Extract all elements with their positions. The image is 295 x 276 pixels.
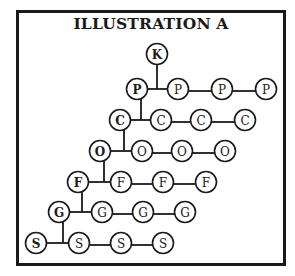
node-o-3: O	[172, 141, 193, 162]
node-label: P	[218, 83, 226, 97]
node-c-4: C	[235, 110, 256, 131]
node-o-4: O	[215, 141, 236, 162]
node-label: P	[262, 83, 270, 97]
node-o-1: O	[90, 141, 111, 162]
node-p-1: P	[127, 79, 148, 100]
node-label: G	[138, 206, 148, 220]
node-label: G	[54, 206, 64, 220]
node-label: O	[95, 145, 105, 159]
tree-diagram: KPPPPCCCCOOOOFFFFGGGGSSSS	[0, 0, 295, 276]
node-label: O	[220, 145, 230, 159]
node-label: P	[132, 83, 141, 97]
node-p-3: P	[212, 79, 233, 100]
node-f-3: F	[153, 172, 174, 193]
node-label: G	[97, 206, 107, 220]
node-s-4: S	[153, 233, 174, 254]
node-label: C	[196, 114, 205, 128]
node-s-2: S	[69, 233, 90, 254]
node-c-2: C	[151, 110, 172, 131]
node-label: F	[74, 176, 83, 190]
node-g-2: G	[92, 202, 113, 223]
node-s-3: S	[111, 233, 132, 254]
node-label: F	[117, 176, 125, 190]
node-o-2: O	[132, 141, 153, 162]
node-label: C	[156, 114, 165, 128]
node-f-1: F	[68, 172, 89, 193]
node-label: K	[152, 48, 163, 62]
node-f-4: F	[196, 172, 217, 193]
node-label: S	[117, 237, 125, 251]
node-g-1: G	[49, 202, 70, 223]
node-label: G	[180, 206, 190, 220]
node-f-2: F	[111, 172, 132, 193]
node-g-3: G	[133, 202, 154, 223]
node-label: S	[32, 237, 41, 251]
node-label: S	[159, 237, 167, 251]
node-c-1: C	[110, 110, 131, 131]
node-c-3: C	[191, 110, 212, 131]
node-g-4: G	[175, 202, 196, 223]
node-p-2: P	[168, 79, 189, 100]
node-label: O	[177, 145, 187, 159]
node-s-1: S	[26, 233, 47, 254]
node-label: F	[202, 176, 210, 190]
node-label: P	[174, 83, 182, 97]
node-label: C	[115, 114, 125, 128]
node-p-4: P	[256, 79, 277, 100]
node-label: C	[240, 114, 249, 128]
node-label: O	[137, 145, 147, 159]
node-label: F	[159, 176, 167, 190]
node-label: S	[75, 237, 83, 251]
node-root-k: K	[147, 44, 168, 65]
